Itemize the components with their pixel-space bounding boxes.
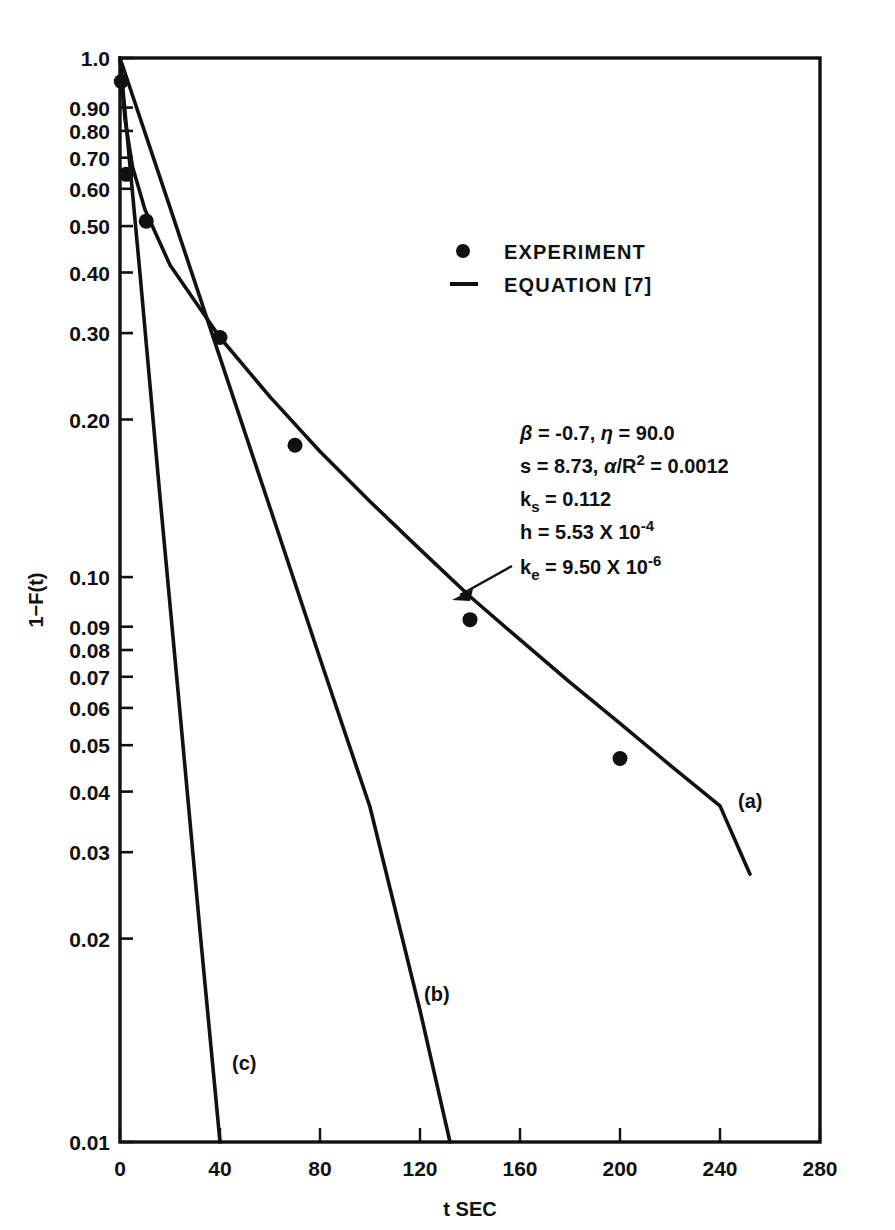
data-point — [463, 612, 478, 627]
ke-exponent: -6 — [648, 552, 661, 569]
legend-label-experiment: EXPERIMENT — [504, 241, 646, 263]
legend: EXPERIMENT EQUATION [7] — [450, 241, 652, 296]
param-line-4: h = 5.53 X 10-4 — [520, 517, 655, 543]
y-axis-ticks — [120, 58, 133, 1142]
beta-value: = -0.7, — [532, 422, 600, 444]
y-tick-label: 0.01 — [69, 1131, 110, 1154]
r-symbol: /R — [616, 455, 637, 477]
param-line-3: ks = 0.112 — [520, 488, 611, 515]
y-tick-label: 0.30 — [69, 322, 110, 345]
experiment-data-points — [114, 74, 628, 766]
y-tick-label: 0.04 — [69, 781, 110, 804]
x-tick-label: 0 — [114, 1157, 126, 1180]
y-tick-label: 1.0 — [81, 47, 110, 70]
legend-marker-dot-icon — [456, 244, 470, 258]
param-line-1: β = -0.7, η = 90.0 — [519, 422, 675, 444]
y-tick-label: 0.09 — [69, 616, 110, 639]
data-point — [139, 214, 154, 229]
s-value: s = 8.73, — [520, 455, 604, 477]
x-axis-title: t SEC — [443, 1198, 496, 1220]
eta-symbol: η — [601, 422, 613, 444]
curve-label-b: (b) — [424, 983, 450, 1005]
y-tick-label: 0.07 — [69, 666, 110, 689]
figure-container: 1.0 0.90 0.80 0.70 0.60 0.50 0.40 0.30 0… — [0, 0, 895, 1230]
ks-subscript: s — [531, 498, 539, 515]
y-tick-label: 0.10 — [69, 566, 110, 589]
y-axis-title: 1−F(t) — [25, 573, 47, 628]
ke-subscript: e — [531, 566, 539, 583]
y-tick-label: 0.70 — [69, 147, 110, 170]
x-tick-label: 280 — [802, 1157, 837, 1180]
h-exponent: -4 — [641, 517, 655, 534]
data-point — [114, 74, 129, 89]
ks-value: = 0.112 — [539, 488, 611, 510]
x-tick-label: 40 — [208, 1157, 231, 1180]
y-tick-label: 0.02 — [69, 928, 110, 951]
eta-value: = 90.0 — [613, 422, 675, 444]
semilog-plot: 1.0 0.90 0.80 0.70 0.60 0.50 0.40 0.30 0… — [0, 0, 895, 1230]
y-tick-label: 0.90 — [69, 97, 110, 120]
curve-label-c: (c) — [232, 1052, 256, 1074]
data-point — [119, 167, 134, 182]
y-axis-tick-labels: 1.0 0.90 0.80 0.70 0.60 0.50 0.40 0.30 0… — [69, 47, 110, 1154]
data-point — [213, 330, 228, 345]
x-tick-label: 80 — [308, 1157, 331, 1180]
x-tick-label: 240 — [702, 1157, 737, 1180]
y-tick-label: 0.03 — [69, 841, 110, 864]
param-line-5: ke = 9.50 X 10-6 — [520, 552, 661, 583]
x-tick-label: 120 — [402, 1157, 437, 1180]
ke-value: = 9.50 X 10 — [539, 556, 647, 578]
alpha-r2-value: = 0.0012 — [645, 455, 729, 477]
data-point — [613, 751, 628, 766]
y-tick-label: 0.40 — [69, 262, 110, 285]
x-axis-tick-labels: 0 40 80 120 160 200 240 280 — [114, 1157, 837, 1180]
curve-c-equation-7 — [120, 58, 220, 1142]
y-tick-label: 0.08 — [69, 639, 110, 662]
legend-label-equation: EQUATION [7] — [504, 274, 652, 296]
y-tick-label: 0.05 — [69, 734, 110, 757]
x-tick-label: 160 — [502, 1157, 537, 1180]
y-tick-label: 0.50 — [69, 215, 110, 238]
y-tick-label: 0.80 — [69, 120, 110, 143]
r-exponent: 2 — [636, 451, 644, 468]
y-tick-label: 0.60 — [69, 178, 110, 201]
beta-symbol: β — [519, 422, 532, 444]
curve-label-a: (a) — [738, 790, 762, 812]
data-point — [288, 438, 303, 453]
parameter-annotation-block: β = -0.7, η = 90.0 s = 8.73, α/R2 = 0.00… — [519, 422, 729, 583]
h-value: h = 5.53 X 10 — [520, 521, 641, 543]
x-tick-label: 200 — [602, 1157, 637, 1180]
x-axis-ticks — [120, 1128, 820, 1142]
curve-pointer-arrow — [452, 566, 512, 601]
y-tick-label: 0.06 — [69, 697, 110, 720]
param-line-2: s = 8.73, α/R2 = 0.0012 — [520, 451, 729, 477]
y-tick-label: 0.20 — [69, 409, 110, 432]
